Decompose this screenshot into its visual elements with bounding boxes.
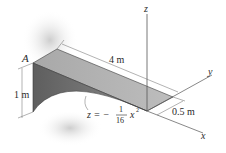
equation-lhs: z = −	[86, 109, 109, 120]
equation-exponent: 2	[136, 107, 139, 113]
x-axis-label: x	[200, 130, 206, 141]
equation-numerator: 1	[119, 105, 123, 114]
equation-denominator: 16	[116, 116, 124, 125]
point-a-label: A	[21, 52, 29, 64]
equation-leader	[85, 96, 88, 110]
parabolic-beam-diagram: A z y x 4 m 1 m 0.5 m z = − 1 16 x 2	[0, 0, 226, 153]
dim-4m-label: 4 m	[109, 54, 125, 65]
dim-05m-label: 0.5 m	[172, 106, 195, 117]
equation-variable: x	[129, 109, 135, 120]
dim-05m-ext	[173, 97, 185, 101]
z-axis-label: z	[143, 3, 148, 14]
y-axis-label: y	[207, 66, 213, 77]
dim-1m-label: 1 m	[14, 89, 30, 100]
dim-1m-ext-bottom	[18, 112, 33, 118]
